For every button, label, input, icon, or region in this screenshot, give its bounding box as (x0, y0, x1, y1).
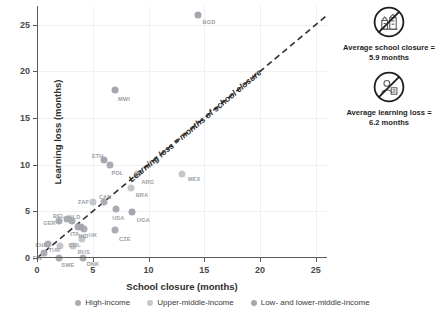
data-point-label: ZAF (78, 199, 89, 205)
data-point[interactable] (79, 255, 86, 262)
data-point-label: ARG (141, 179, 154, 185)
data-point[interactable] (56, 255, 63, 262)
data-point-label: CAN (99, 194, 111, 200)
x-tick (149, 258, 150, 262)
x-tick (37, 258, 38, 262)
y-tick (33, 165, 37, 166)
data-point[interactable] (112, 87, 119, 94)
x-tick-label: 0 (34, 265, 39, 275)
y-tick-label: 10 (20, 160, 30, 170)
annotation-learning-loss-line1: Average learning loss = (346, 108, 431, 117)
x-axis-line (37, 257, 327, 258)
legend-label: Upper-middle-income (157, 298, 233, 307)
x-tick (260, 258, 261, 262)
x-tick-label: 20 (255, 265, 265, 275)
y-tick-label: 0 (25, 253, 30, 263)
no-learning-icon (371, 69, 407, 105)
x-tick (93, 258, 94, 262)
data-point[interactable] (113, 206, 120, 213)
no-school-icon (371, 4, 407, 40)
data-point[interactable] (106, 161, 113, 168)
x-tick-label: 15 (199, 265, 209, 275)
legend-dot-upper (147, 300, 153, 306)
x-tick (204, 258, 205, 262)
data-point[interactable] (194, 12, 201, 19)
data-point-label: TUR (48, 247, 60, 253)
data-point[interactable] (134, 171, 141, 178)
data-point[interactable] (89, 199, 96, 206)
data-point-label: NLD (69, 214, 81, 220)
data-point-label: BRA (136, 192, 148, 198)
plot-canvas: GERBELNLDCANUKITAUSAPOLCZECHEDNKFINSWEME… (37, 6, 327, 258)
x-tick-label: 10 (144, 265, 154, 275)
legend-dot-low (251, 300, 257, 306)
legend-label: High-income (85, 298, 130, 307)
annotation-school-closure-line1: Average school closure = (343, 43, 435, 52)
data-point-label: GER (43, 220, 55, 226)
annotation-school-closure-text: Average school closure = 5.9 months (336, 43, 442, 62)
data-point-label: SWE (61, 262, 74, 268)
y-tick (33, 211, 37, 212)
chart-root: GERBELNLDCANUKITAUSAPOLCZECHEDNKFINSWEME… (0, 0, 445, 312)
data-point[interactable] (127, 185, 134, 192)
data-point-label: BGD (203, 19, 216, 25)
data-point[interactable] (128, 209, 135, 216)
data-point-label: IND (79, 233, 89, 239)
annotation-learning-loss: Average learning loss = 6.2 months (336, 69, 442, 127)
y-tick (33, 25, 37, 26)
annotation-panel: Average school closure = 5.9 months Aver… (336, 4, 442, 135)
data-point-label: COL (69, 242, 81, 248)
legend-item[interactable]: Low- and lower-middle-income (251, 298, 370, 307)
legend-label: Low- and lower-middle-income (261, 298, 370, 307)
annotation-learning-loss-line2: 6.2 months (369, 118, 409, 127)
scatter-plot: GERBELNLDCANUKITAUSAPOLCZECHEDNKFINSWEME… (37, 6, 327, 258)
annotation-learning-loss-text: Average learning loss = 6.2 months (336, 108, 442, 127)
legend-item[interactable]: Upper-middle-income (147, 298, 233, 307)
legend: High-incomeUpper-middle-incomeLow- and l… (0, 298, 445, 307)
y-tick-label: 5 (25, 206, 30, 216)
data-point-label: USA (112, 215, 124, 221)
x-axis-title: School closure (months) (37, 281, 327, 292)
data-point[interactable] (112, 227, 119, 234)
y-tick-label: 15 (20, 113, 30, 123)
y-tick (33, 71, 37, 72)
data-point-label: UK (89, 232, 97, 238)
data-point-label: RUS (78, 249, 90, 255)
y-axis-title: Learning loss (months) (52, 79, 63, 184)
y-tick-label: 20 (20, 66, 30, 76)
y-tick (33, 118, 37, 119)
reference-line (37, 6, 327, 258)
data-point-label: BEL (53, 213, 65, 219)
data-point-label: MEX (188, 176, 200, 182)
data-point-label: POL (112, 170, 124, 176)
data-point[interactable] (179, 171, 186, 178)
data-point-label: ETH (92, 153, 104, 159)
data-point-label: CZE (119, 236, 131, 242)
annotation-school-closure-line2: 5.9 months (369, 53, 409, 62)
x-tick (316, 258, 317, 262)
y-axis-line (37, 6, 38, 258)
data-point-label: UGA (137, 217, 150, 223)
data-point-label: MWI (118, 96, 130, 102)
y-tick (33, 258, 37, 259)
annotation-school-closure: Average school closure = 5.9 months (336, 4, 442, 62)
y-tick-label: 25 (20, 20, 30, 30)
legend-item[interactable]: High-income (75, 298, 130, 307)
x-tick-label: 5 (90, 265, 95, 275)
legend-dot-high (75, 300, 81, 306)
x-tick-label: 25 (311, 265, 321, 275)
data-point[interactable] (77, 224, 84, 231)
